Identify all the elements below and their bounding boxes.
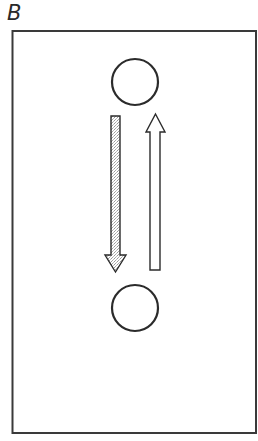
top-circle: [112, 59, 158, 105]
diagram-canvas: [0, 0, 258, 441]
bottom-circle: [112, 285, 158, 331]
